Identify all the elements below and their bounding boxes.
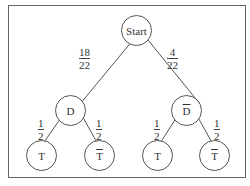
numerator: 1 bbox=[214, 118, 220, 128]
leaf1-label: T bbox=[38, 150, 45, 162]
denominator: 2 bbox=[96, 131, 102, 141]
numerator: 1 bbox=[154, 118, 160, 128]
numerator: 4 bbox=[170, 47, 176, 57]
prob-root-left: 1822 bbox=[79, 47, 90, 70]
numerator: 1 bbox=[96, 118, 102, 128]
node-d-label: D bbox=[67, 105, 75, 117]
node-leaf2-t-bar: T bbox=[84, 140, 115, 171]
leaf4-label: T bbox=[211, 150, 218, 162]
denominator: 2 bbox=[38, 131, 44, 141]
prob-left-leaf1: 12 bbox=[38, 118, 44, 141]
node-start: Start bbox=[121, 15, 152, 46]
node-start-label: Start bbox=[126, 25, 147, 37]
numerator: 18 bbox=[79, 47, 90, 57]
numerator: 1 bbox=[38, 118, 44, 128]
prob-left-leaf2: 12 bbox=[96, 118, 102, 141]
denominator: 22 bbox=[167, 60, 178, 70]
denominator: 2 bbox=[154, 131, 160, 141]
prob-right-leaf4: 12 bbox=[214, 118, 220, 141]
prob-root-right: 422 bbox=[167, 47, 178, 70]
prob-right-leaf3: 12 bbox=[154, 118, 160, 141]
node-leaf1-t: T bbox=[26, 140, 57, 171]
node-d: D bbox=[55, 95, 86, 126]
leaf2-label: T bbox=[96, 150, 103, 162]
node-leaf4-t-bar: T bbox=[199, 140, 230, 171]
node-d-bar: D bbox=[171, 95, 202, 126]
leaf3-label: T bbox=[154, 150, 161, 162]
denominator: 2 bbox=[214, 131, 220, 141]
node-d-bar-label: D bbox=[183, 105, 191, 117]
denominator: 22 bbox=[79, 60, 90, 70]
node-leaf3-t: T bbox=[142, 140, 173, 171]
